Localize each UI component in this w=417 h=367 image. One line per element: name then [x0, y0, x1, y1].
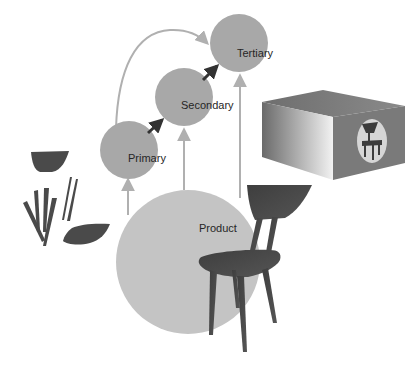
packaging-levels-diagram: Primary Secondary Tertiary Product: [0, 0, 417, 367]
tertiary-label: Tertiary: [237, 47, 273, 59]
primary-node: [100, 121, 158, 179]
secondary-label: Secondary: [181, 99, 234, 111]
chair-parts-icon: [23, 151, 110, 246]
primary-label: Primary: [128, 152, 166, 164]
tertiary-node: [210, 14, 268, 72]
box-icon: [262, 90, 405, 180]
product-label: Product: [199, 222, 237, 234]
